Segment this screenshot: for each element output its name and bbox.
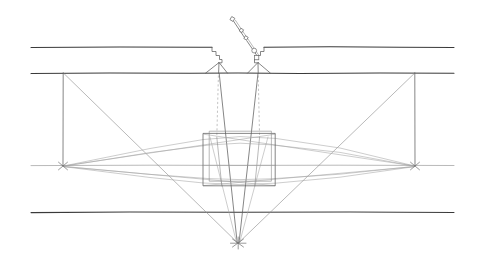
horizontal-convergence-group	[64, 134, 415, 185]
left-edge-ray-to-bottom-vp	[63, 73, 237, 243]
lower-envelope-inner	[64, 166, 414, 179]
left-dashed-drop	[217, 76, 219, 138]
chord-left-vp-to-box-top-right	[64, 134, 275, 166]
left-notch-brace-right	[219, 63, 227, 73]
notch-ray-right-to-bottom-vp	[239, 73, 258, 242]
center-box-outer	[203, 133, 275, 185]
chord-right-vp-to-box-top-left	[204, 134, 415, 166]
arm-node-elbow-icon	[252, 48, 257, 53]
dashed-drop-group	[217, 76, 260, 138]
lower-band-line	[31, 73, 454, 74]
right-dashed-drop	[258, 76, 259, 138]
inner-ray-right-to-bottom-vp	[240, 137, 268, 243]
drawing-canvas: Perspective construction line drawing Te…	[0, 0, 488, 278]
left-notch-brace-left	[206, 63, 219, 73]
chord-right-vp-to-box-bottom-left	[204, 167, 415, 186]
jointed-diagonal-arm	[230, 17, 259, 60]
right-notch-brace-left	[248, 63, 258, 73]
vanishing-point-marker-group	[59, 162, 420, 249]
upper-band-line-right	[264, 47, 454, 48]
chord-left-vp-to-box-bottom-right	[64, 167, 275, 186]
left-stepped-notch	[206, 47, 228, 73]
upper-band-line-left	[31, 47, 212, 48]
vertical-edge-group	[63, 73, 415, 166]
left-notch-step-profile	[212, 47, 222, 63]
upper-envelope-left	[64, 137, 415, 166]
lower-envelope-left	[64, 167, 415, 185]
arm-node-base-icon	[255, 55, 259, 59]
arm-node-tip-icon	[230, 17, 235, 22]
perspective-construction-drawing: Perspective construction line drawing Te…	[0, 0, 488, 278]
right-edge-ray-to-bottom-vp	[239, 73, 415, 243]
bottom-vanishing-point-marker	[231, 237, 247, 249]
inner-ray-left-to-bottom-vp	[210, 137, 237, 243]
right-notch-brace-right	[258, 63, 270, 73]
upper-envelope-inner	[64, 143, 414, 166]
notch-ray-left-to-bottom-vp	[219, 73, 237, 242]
arm-node-mid-lower-icon	[244, 36, 248, 40]
right-stepped-notch	[248, 47, 271, 73]
horizontal-band-group	[31, 47, 454, 213]
